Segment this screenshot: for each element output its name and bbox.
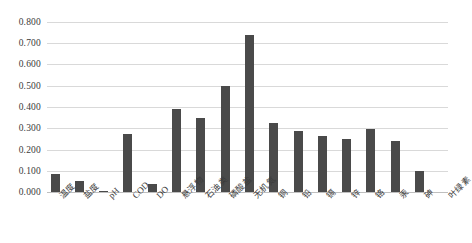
bar — [318, 136, 327, 192]
bar — [123, 134, 132, 192]
x-axis-labels: 温度盐度pHCODDO悬浮物石油类磷酸盐无机氮铜铅镉锌铬汞砷叶绿素 — [47, 194, 448, 243]
bar — [172, 109, 181, 192]
bar — [342, 139, 351, 192]
bar — [294, 131, 303, 192]
bar — [415, 171, 424, 192]
bar — [51, 174, 60, 192]
y-tick-label: 0.800 — [0, 18, 41, 28]
y-tick-label: 0.100 — [0, 167, 41, 177]
y-tick-label: 0.300 — [0, 124, 41, 134]
y-tick-label: 0.000 — [0, 188, 41, 198]
y-tick-label: 0.400 — [0, 103, 41, 113]
y-tick-label: 0.600 — [0, 60, 41, 70]
bar-series — [47, 22, 448, 192]
bar — [366, 129, 375, 192]
y-tick-label: 0.700 — [0, 39, 41, 49]
bar — [245, 35, 254, 192]
plot-area — [47, 22, 448, 192]
bar — [391, 141, 400, 192]
y-tick-label: 0.200 — [0, 146, 41, 156]
x-axis-label: 叶绿素 — [447, 175, 472, 200]
y-tick-label: 0.500 — [0, 82, 41, 92]
